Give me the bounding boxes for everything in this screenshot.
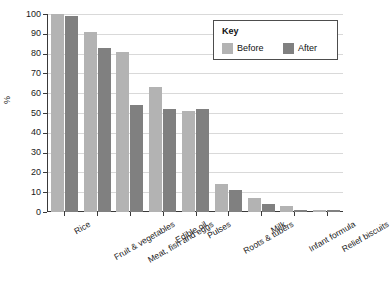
bar-before [280, 206, 293, 212]
y-tick-label: 50 [15, 109, 41, 118]
bar-after [65, 16, 78, 212]
y-tick-mark [43, 54, 47, 55]
bar-after [262, 204, 275, 212]
bar-before [116, 52, 129, 212]
bar-before [215, 184, 228, 212]
x-tick-label: Rice [73, 219, 93, 236]
y-tick-mark [43, 113, 47, 114]
bar-after [294, 210, 307, 212]
bar-group [51, 14, 78, 212]
x-tick-mark [196, 212, 197, 216]
bar-after [229, 190, 242, 212]
y-tick-mark [43, 14, 47, 15]
bar-before [182, 111, 195, 212]
y-tick-label: 10 [15, 188, 41, 197]
y-tick-mark [43, 153, 47, 154]
y-tick-label: 40 [15, 128, 41, 137]
bar-group [182, 14, 209, 212]
bar-after [327, 210, 340, 212]
y-tick-label: 80 [15, 49, 41, 58]
bar-before [248, 198, 261, 212]
y-tick-mark [43, 172, 47, 173]
bar-group [84, 14, 111, 212]
bar-before [84, 32, 97, 212]
x-tick-mark [261, 212, 262, 216]
bar-after [98, 48, 111, 212]
y-tick-label: 90 [15, 29, 41, 38]
legend-label-before: Before [237, 43, 264, 53]
y-tick-label: 60 [15, 89, 41, 98]
x-tick-label: Roots & tubers [242, 219, 296, 256]
legend: Key Before After [213, 20, 338, 60]
x-tick-mark [163, 212, 164, 216]
legend-title: Key [222, 26, 239, 36]
bar-after [163, 109, 176, 212]
y-tick-mark [43, 192, 47, 193]
bar-group [149, 14, 176, 212]
y-tick-label: 30 [15, 148, 41, 157]
x-tick-mark [97, 212, 98, 216]
legend-label-after: After [298, 43, 317, 53]
x-tick-mark [228, 212, 229, 216]
y-tick-label: 100 [15, 10, 41, 19]
bar-before [51, 14, 64, 212]
y-tick-mark [43, 133, 47, 134]
x-tick-mark [294, 212, 295, 216]
y-tick-label: 70 [15, 69, 41, 78]
y-tick-mark [43, 93, 47, 94]
y-tick-mark [43, 73, 47, 74]
y-tick-mark [43, 212, 47, 213]
bar-before [149, 87, 162, 212]
legend-swatch-before [222, 43, 233, 54]
x-tick-mark [327, 212, 328, 216]
legend-swatch-after [283, 43, 294, 54]
x-tick-mark [64, 212, 65, 216]
bar-after [196, 109, 209, 212]
bar-group [116, 14, 143, 212]
bar-before [313, 210, 326, 212]
bar-after [130, 105, 143, 212]
y-tick-label: 20 [15, 168, 41, 177]
y-tick-label: 0 [15, 208, 41, 217]
x-tick-mark [130, 212, 131, 216]
y-tick-mark [43, 34, 47, 35]
y-axis-title: % [2, 96, 12, 104]
